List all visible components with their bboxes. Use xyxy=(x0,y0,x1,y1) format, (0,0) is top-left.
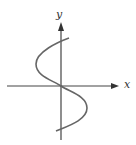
y-axis-label: y xyxy=(56,8,62,21)
graph xyxy=(0,0,136,145)
y-axis-arrow-icon xyxy=(58,22,64,31)
x-axis-label: x xyxy=(124,78,130,91)
x-axis-arrow-icon xyxy=(111,83,119,89)
